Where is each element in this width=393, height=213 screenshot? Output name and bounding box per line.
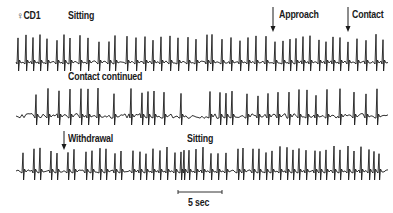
spike-trace-row-2 xyxy=(16,88,388,125)
scale-bar xyxy=(178,190,222,194)
scale-bar-label: 5 sec xyxy=(188,197,209,208)
spike-trace-row-3 xyxy=(16,146,388,180)
event-arrow-icon xyxy=(271,7,276,32)
event-arrow-icon xyxy=(62,131,67,150)
event-arrow-icon xyxy=(346,7,351,32)
spike-traces xyxy=(0,0,393,213)
spike-trace-row-1 xyxy=(16,34,388,71)
